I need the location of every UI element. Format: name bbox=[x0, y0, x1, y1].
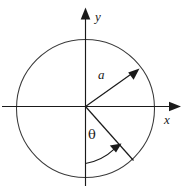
y-axis-label: y bbox=[95, 10, 101, 23]
unit-circle-diagram bbox=[0, 0, 192, 188]
radius-vector-label: a bbox=[98, 68, 105, 81]
y-axis-arrowhead bbox=[81, 8, 91, 20]
x-axis-arrowhead bbox=[169, 102, 181, 111]
figure-container: y x a θ bbox=[0, 0, 192, 188]
angle-theta-label: θ bbox=[88, 128, 96, 141]
radius-vector-line bbox=[86, 74, 133, 107]
radius-vector-arrowhead bbox=[128, 69, 139, 80]
angle-arc bbox=[86, 149, 115, 164]
x-axis-label: x bbox=[164, 113, 170, 126]
